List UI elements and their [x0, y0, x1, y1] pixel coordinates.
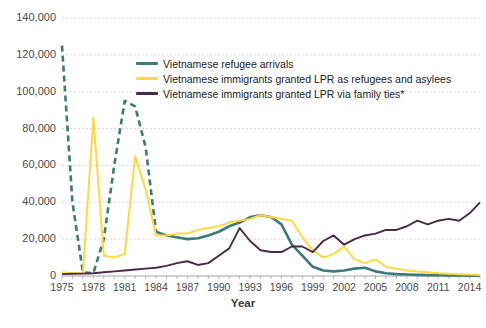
y-tick-label: 60,000 [0, 159, 56, 170]
y-tick-label: 20,000 [0, 233, 56, 244]
y-tick-label: 120,000 [0, 49, 56, 60]
legend-swatch-purple [136, 92, 158, 95]
y-tick-label: 100,000 [0, 86, 56, 97]
y-tick-label: 140,000 [0, 12, 56, 23]
y-tick-label: 0 [0, 270, 56, 281]
legend-label-refugee-arrivals: Vietnamese refugee arrivals [163, 58, 294, 70]
x-tick-label: 2005 [359, 282, 393, 293]
chart-container: 140,000120,000100,00080,00060,00040,0002… [0, 0, 486, 328]
legend-item-lpr-refugees-asylees: Vietnamese immigrants granted LPR as ref… [136, 72, 451, 85]
y-tick-label: 40,000 [0, 196, 56, 207]
legend-swatch-yellow [136, 77, 158, 80]
x-tick-label: 1993 [233, 282, 267, 293]
x-tick-label: 1984 [139, 282, 173, 293]
x-tick-label: 1999 [296, 282, 330, 293]
x-tick-label: 2011 [421, 282, 455, 293]
x-axis-title: Year [0, 297, 486, 309]
chart-legend: Vietnamese refugee arrivals Vietnamese i… [136, 57, 451, 100]
x-tick-label: 1990 [202, 282, 236, 293]
x-tick-label: 1987 [170, 282, 204, 293]
chart-canvas [0, 0, 486, 328]
series-line-2 [62, 202, 480, 274]
x-tick-label: 1975 [45, 282, 79, 293]
x-tick-label: 1996 [264, 282, 298, 293]
y-tick-label: 80,000 [0, 123, 56, 134]
legend-item-refugee-arrivals: Vietnamese refugee arrivals [136, 57, 451, 70]
x-tick-label: 2014 [453, 282, 486, 293]
x-axis-ticks [62, 276, 480, 279]
x-tick-label: 2002 [327, 282, 361, 293]
x-tick-label: 2008 [390, 282, 424, 293]
legend-swatch-teal [136, 62, 158, 65]
legend-label-lpr-family-ties: Vietnamese immigrants granted LPR via fa… [163, 88, 404, 100]
legend-item-lpr-family-ties: Vietnamese immigrants granted LPR via fa… [136, 87, 451, 100]
x-tick-label: 1981 [108, 282, 142, 293]
x-tick-label: 1978 [76, 282, 110, 293]
legend-label-lpr-refugees-asylees: Vietnamese immigrants granted LPR as ref… [163, 73, 451, 85]
